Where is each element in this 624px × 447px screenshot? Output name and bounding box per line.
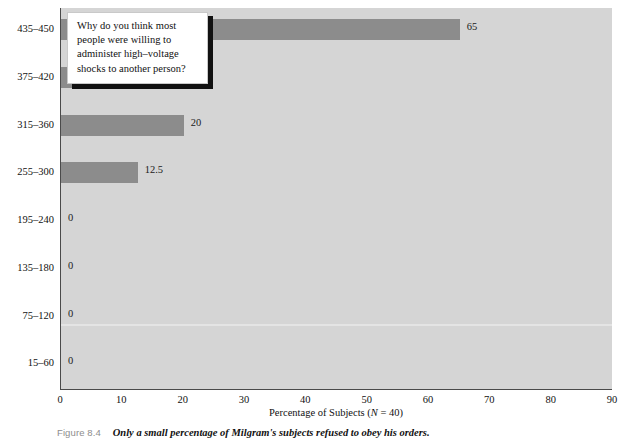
x-axis-tick-label: 70: [484, 394, 495, 405]
x-axis-tick-label: 50: [361, 394, 372, 405]
x-axis-tick-label: 60: [423, 394, 434, 405]
callout-box: Why do you think most people were willin…: [67, 12, 208, 84]
bar-value-label: 12.5: [145, 163, 163, 177]
x-axis-title-pre: Percentage of Subjects (: [269, 407, 371, 418]
figure-caption-label: Figure 8.4: [57, 427, 101, 438]
bar: [61, 115, 184, 136]
y-axis-tick-label: 435–450: [0, 23, 54, 34]
y-axis-tick-label: 375–420: [0, 71, 54, 82]
bar-value-label: 0: [68, 211, 73, 225]
bar-value-label: 65: [467, 20, 478, 34]
x-axis-tick-label: 10: [116, 394, 127, 405]
bar-value-label: 0: [68, 307, 73, 321]
figure-container: Maximum Shock Used by Subject 15–6075–12…: [0, 0, 624, 447]
x-axis-tick-label: 30: [239, 394, 250, 405]
y-axis-tick-label: 195–240: [0, 214, 54, 225]
callout-text: Why do you think most people were willin…: [77, 19, 203, 76]
x-axis-tick-label: 80: [545, 394, 556, 405]
x-axis-tick-label: 40: [300, 394, 311, 405]
bar-row: 0: [61, 295, 613, 339]
y-axis-tick-label: 255–300: [0, 166, 54, 177]
x-axis-tick-label: 90: [607, 394, 618, 405]
bar-row: 20: [61, 104, 613, 148]
y-axis-tick-label: 315–360: [0, 119, 54, 130]
figure-caption-text: Only a small percentage of Milgram's sub…: [113, 427, 430, 438]
x-axis-title-italic-n: N: [371, 407, 378, 418]
bar-row: 0: [61, 342, 613, 386]
bar-value-label: 0: [68, 354, 73, 368]
bar: [61, 162, 138, 183]
bar-row: 12.5: [61, 151, 613, 195]
y-axis-tick-label: 75–120: [0, 310, 54, 321]
bar-value-label: 0: [68, 259, 73, 273]
x-axis-tick-label: 20: [177, 394, 188, 405]
x-axis-title: Percentage of Subjects (N = 40): [60, 407, 612, 418]
y-axis-tick-label: 15–60: [0, 357, 54, 368]
x-axis-title-post: = 40): [378, 407, 403, 418]
figure-caption: Figure 8.4Only a small percentage of Mil…: [57, 427, 617, 438]
bar-value-label: 20: [191, 116, 202, 130]
bar-row: 0: [61, 199, 613, 243]
x-axis-tick-label: 0: [57, 394, 62, 405]
y-axis-tick-label: 135–180: [0, 262, 54, 273]
bar-row: 0: [61, 247, 613, 291]
